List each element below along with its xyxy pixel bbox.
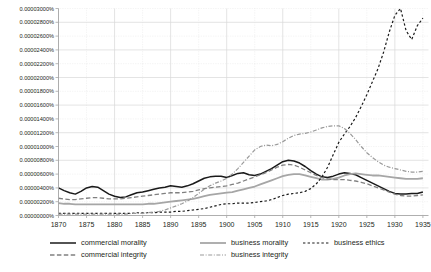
y-axis-tick-label: 0.00001200% — [19, 130, 54, 136]
x-axis-tick-label: 1885 — [135, 221, 151, 228]
y-axis-tick-label: 0.00001600% — [19, 102, 54, 108]
x-axis-tick-label: 1935 — [415, 221, 431, 228]
y-axis-tick-label: 0.00000000% — [19, 213, 54, 219]
x-axis-tick-label: 1870 — [51, 221, 67, 228]
x-axis-tick-label: 1905 — [247, 221, 263, 228]
y-axis-tick-label: 0.00000200% — [19, 199, 54, 205]
y-axis-tick-label: 0.00001800% — [19, 88, 54, 94]
y-axis-tick-label: 0.00000600% — [19, 171, 54, 177]
ngram-line-chart: 0.00000000%0.00000200%0.00000400%0.00000… — [0, 0, 431, 272]
x-axis-tick-label: 1915 — [303, 221, 319, 228]
y-axis-tick-label: 0.00002800% — [19, 19, 54, 25]
chart-background — [0, 0, 431, 272]
legend-label: commercial integrity — [81, 250, 147, 259]
x-axis-tick-label: 1920 — [331, 221, 347, 228]
chart-container: 0.00000000%0.00000200%0.00000400%0.00000… — [0, 0, 431, 272]
x-axis-tick-label: 1925 — [359, 221, 375, 228]
x-axis-tick-label: 1895 — [191, 221, 207, 228]
y-axis-tick-label: 0.00000800% — [19, 157, 54, 163]
legend-label: business morality — [231, 238, 288, 247]
y-axis-tick-label: 0.00003000% — [19, 6, 54, 12]
legend-label: business ethics — [334, 238, 385, 247]
x-axis-tick-label: 1900 — [219, 221, 235, 228]
y-axis-tick-label: 0.00002000% — [19, 75, 54, 81]
x-axis-tick-label: 1890 — [163, 221, 179, 228]
x-axis-tick-label: 1910 — [275, 221, 291, 228]
x-axis-tick-label: 1880 — [107, 221, 123, 228]
legend-label: business integrity — [231, 250, 288, 259]
x-axis-tick-label: 1930 — [387, 221, 403, 228]
y-axis-tick-label: 0.00002400% — [19, 47, 54, 53]
legend-label: commercial morality — [81, 238, 147, 247]
y-axis-tick-label: 0.00001000% — [19, 144, 54, 150]
y-axis-tick-label: 0.00000400% — [19, 185, 54, 191]
x-axis-tick-label: 1875 — [79, 221, 95, 228]
y-axis-tick-label: 0.00002200% — [19, 61, 54, 67]
y-axis-tick-label: 0.00002600% — [19, 33, 54, 39]
y-axis-tick-label: 0.00001400% — [19, 116, 54, 122]
